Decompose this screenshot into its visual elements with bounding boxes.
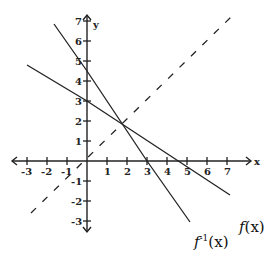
x-tick-label: 2: [124, 166, 131, 177]
y-tick-label: 1: [75, 136, 82, 147]
y-tick-label: 7: [75, 16, 82, 27]
f-inverse-label: f-1(x): [193, 233, 229, 251]
y-tick-label: 2: [75, 116, 82, 127]
y-tick-label: -1: [71, 176, 82, 187]
x-tick-label: 1: [104, 166, 111, 177]
y-tick-label: -3: [71, 216, 82, 227]
f-label: f(x): [238, 218, 265, 236]
x-tick-label: 7: [224, 166, 231, 177]
x-tick-label: 4: [164, 166, 171, 177]
y-tick-label: 6: [75, 36, 82, 47]
graph: -3-2-11234567 7654321-1-2-3 x y f(x) f-1…: [0, 0, 279, 260]
x-tick-label: -2: [41, 166, 52, 177]
y-tick-label: 4: [75, 76, 82, 87]
y-tick-label: -2: [71, 196, 82, 207]
x-axis-label: x: [254, 156, 261, 167]
y-axis-label: y: [92, 19, 100, 30]
y-ticks: 7654321-1-2-3: [71, 16, 91, 227]
series: [27, 15, 233, 222]
axes: [12, 15, 251, 232]
x-tick-label: 6: [204, 166, 211, 177]
x-tick-label: 3: [144, 166, 151, 177]
series-line-2: [31, 15, 233, 213]
x-tick-label: -3: [21, 166, 32, 177]
x-ticks: -3-2-11234567: [21, 157, 231, 177]
